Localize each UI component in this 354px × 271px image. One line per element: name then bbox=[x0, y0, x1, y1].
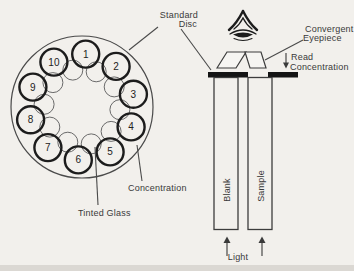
colorimeter-diagram: 12345678910 bbox=[0, 0, 354, 271]
standard-circle-number: 5 bbox=[107, 146, 113, 157]
disc-edge-right-segment bbox=[268, 72, 298, 78]
disc-edge-left-segment bbox=[208, 72, 248, 78]
blank-tube-label: Blank bbox=[222, 178, 232, 202]
standard-circle-number: 2 bbox=[113, 61, 119, 72]
down-arrow-head bbox=[283, 63, 289, 69]
eye-icon bbox=[229, 11, 257, 41]
convergent-eyepiece-label-line2: Eyepiece bbox=[303, 33, 342, 43]
up-arrow-head-left bbox=[224, 237, 231, 244]
comparator-tubes bbox=[214, 78, 272, 230]
tinted-glass-label: Tinted Glass bbox=[78, 208, 131, 218]
read-concentration-label-line2: Concentration bbox=[290, 62, 349, 72]
blank-tube bbox=[214, 78, 238, 230]
eye-lower-lid bbox=[234, 39, 252, 41]
standard-disc-leader-left bbox=[129, 27, 158, 50]
standard-circle-number: 10 bbox=[48, 57, 60, 68]
light-label: Light bbox=[228, 252, 249, 262]
sample-tube bbox=[248, 78, 272, 230]
standard-circle-number: 3 bbox=[131, 89, 137, 100]
standard-disc-face: 12345678910 bbox=[11, 36, 153, 178]
sample-tube-label: Sample bbox=[256, 170, 266, 202]
tinted-glass-circle bbox=[110, 100, 130, 120]
up-arrow-head-right bbox=[259, 237, 266, 244]
standard-disc-label-line2: Disc bbox=[179, 19, 198, 29]
eye-lens bbox=[233, 33, 253, 38]
standard-circle-number: 6 bbox=[76, 154, 82, 165]
standard-circle-number: 1 bbox=[83, 49, 89, 60]
standard-circle-number: 8 bbox=[28, 114, 34, 125]
prism-right bbox=[245, 52, 266, 68]
standard-circle-number: 7 bbox=[45, 142, 51, 153]
tinted-glass-circle bbox=[34, 94, 54, 114]
standard-circle-number: 9 bbox=[30, 82, 36, 93]
read-concentration-label-line1: Read bbox=[291, 52, 313, 62]
standard-circle-number: 4 bbox=[128, 121, 134, 132]
convergent-eyepiece-prisms bbox=[217, 52, 266, 68]
standard-disc-edge-view bbox=[208, 72, 298, 78]
page-edge bbox=[0, 265, 354, 271]
down-arrow-icon bbox=[283, 53, 289, 69]
concentration-leader bbox=[137, 145, 142, 181]
standard-disc-leader-right bbox=[181, 29, 211, 70]
prism-left bbox=[217, 52, 246, 68]
numbered-standard-ring: 12345678910 bbox=[17, 41, 147, 174]
concentration-label: Concentration bbox=[128, 183, 187, 193]
